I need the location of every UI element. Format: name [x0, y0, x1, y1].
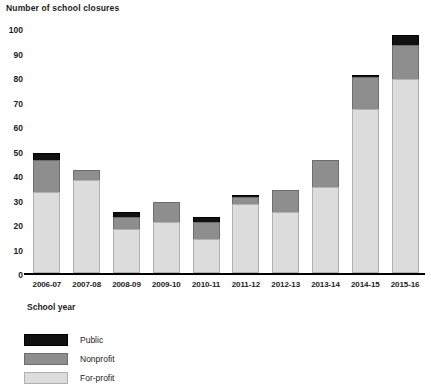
bar-segment-public[interactable]	[392, 35, 419, 45]
x-axis-tick-labels: 2006-072007-082008-092009-102010-112011-…	[27, 280, 425, 289]
legend-item[interactable]: Public	[24, 330, 115, 349]
x-axis-title: School year	[27, 302, 75, 312]
bar-slot	[146, 28, 186, 273]
stacked-bar[interactable]	[232, 195, 259, 273]
bar-segment-forprofit[interactable]	[312, 187, 339, 273]
bar-slot	[186, 28, 226, 273]
y-axis-tick-50: 50	[14, 148, 23, 158]
legend-label: For-profit	[80, 373, 114, 383]
bar-segment-forprofit[interactable]	[73, 180, 100, 273]
stacked-bar[interactable]	[33, 153, 60, 273]
y-axis-tick-30: 30	[14, 197, 23, 207]
x-axis-tick-label: 2015-16	[385, 280, 425, 289]
bar-segment-forprofit[interactable]	[232, 204, 259, 273]
bar-segment-nonprofit[interactable]	[352, 77, 379, 109]
x-axis-line	[24, 273, 425, 275]
bar-segment-forprofit[interactable]	[392, 79, 419, 273]
stacked-bar[interactable]	[272, 190, 299, 273]
y-axis-tick-80: 80	[14, 74, 23, 84]
bar-segment-forprofit[interactable]	[272, 212, 299, 273]
legend-label: Public	[80, 335, 103, 345]
plot-area: 0102030405060708090100	[27, 28, 425, 275]
x-axis-tick-label: 2010-11	[186, 280, 226, 289]
x-axis-tick-label: 2012-13	[266, 280, 306, 289]
x-axis-tick-label: 2013-14	[306, 280, 346, 289]
bar-segment-forprofit[interactable]	[33, 192, 60, 273]
stacked-bar[interactable]	[73, 170, 100, 273]
legend-label: Nonprofit	[80, 354, 115, 364]
bar-segment-nonprofit[interactable]	[232, 197, 259, 204]
bar-segment-nonprofit[interactable]	[33, 160, 60, 192]
bar-segment-nonprofit[interactable]	[153, 202, 180, 222]
stacked-bar[interactable]	[153, 202, 180, 273]
y-axis-tick-20: 20	[14, 221, 23, 231]
bar-slot	[385, 28, 425, 273]
bar-group	[27, 28, 425, 273]
x-axis-tick-label: 2011-12	[226, 280, 266, 289]
x-axis-tick-label: 2008-09	[107, 280, 147, 289]
bar-segment-nonprofit[interactable]	[113, 217, 140, 229]
bar-segment-forprofit[interactable]	[352, 109, 379, 273]
stacked-bar[interactable]	[392, 35, 419, 273]
stacked-bar[interactable]	[352, 75, 379, 273]
y-axis-tick-10: 10	[14, 246, 23, 256]
y-axis-tick-40: 40	[14, 172, 23, 182]
stacked-bar[interactable]	[113, 212, 140, 273]
y-axis-tick-0: 0	[18, 270, 23, 280]
legend-swatch	[24, 353, 68, 365]
stacked-bar[interactable]	[193, 217, 220, 273]
x-axis-tick-label: 2006-07	[27, 280, 67, 289]
bar-slot	[266, 28, 306, 273]
bar-slot	[345, 28, 385, 273]
bar-slot	[107, 28, 147, 273]
bar-segment-forprofit[interactable]	[153, 222, 180, 273]
legend-swatch	[24, 372, 68, 384]
legend-item[interactable]: Nonprofit	[24, 349, 115, 368]
bar-segment-nonprofit[interactable]	[392, 45, 419, 79]
bar-segment-forprofit[interactable]	[113, 229, 140, 273]
legend-swatch	[24, 334, 68, 346]
stacked-bar[interactable]	[312, 160, 339, 273]
chart-legend: PublicNonprofitFor-profit	[24, 330, 115, 386]
bar-segment-nonprofit[interactable]	[272, 190, 299, 212]
y-axis-tick-70: 70	[14, 99, 23, 109]
bar-segment-public[interactable]	[33, 153, 60, 160]
y-axis-tick-90: 90	[14, 50, 23, 60]
bar-slot	[306, 28, 346, 273]
bar-slot	[27, 28, 67, 273]
y-axis-tick-100: 100	[9, 25, 23, 35]
x-axis-tick-label: 2007-08	[67, 280, 107, 289]
bar-segment-nonprofit[interactable]	[193, 222, 220, 239]
bar-slot	[226, 28, 266, 273]
bar-segment-nonprofit[interactable]	[73, 170, 100, 180]
x-axis-tick-label: 2009-10	[146, 280, 186, 289]
x-axis-tick-label: 2014-15	[345, 280, 385, 289]
bar-segment-nonprofit[interactable]	[312, 160, 339, 187]
y-axis-tick-60: 60	[14, 123, 23, 133]
legend-item[interactable]: For-profit	[24, 368, 115, 386]
bar-slot	[67, 28, 107, 273]
bar-segment-forprofit[interactable]	[193, 239, 220, 273]
y-axis-title: Number of school closures	[6, 3, 119, 13]
school-closures-bar-chart: Number of school closures 01020304050607…	[0, 0, 431, 386]
